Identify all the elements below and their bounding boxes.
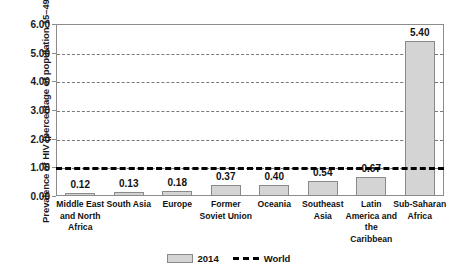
bar-value-label: 0.18 (168, 177, 187, 188)
legend-entry-world: World (233, 253, 291, 264)
bar-value-label: 0.37 (216, 171, 235, 182)
bar-value-label: 0.12 (71, 179, 90, 190)
bar (356, 177, 386, 196)
hiv-prevalence-bar-chart: Prevalence of HIV (percentage of populat… (0, 0, 457, 277)
legend-swatch-icon (167, 254, 193, 263)
bar (162, 191, 192, 196)
bar (405, 41, 435, 196)
bar (114, 192, 144, 196)
bar (65, 193, 95, 196)
y-axis-tick-label: 3.00 (10, 105, 50, 116)
bar-value-label: 0.40 (265, 171, 284, 182)
x-axis-category-label: Sub-SaharanAfrica (389, 199, 452, 222)
y-axis-tick-label: 5.00 (10, 47, 50, 58)
bar-value-label: 0.13 (119, 178, 138, 189)
y-axis-tick-label: 2.00 (10, 133, 50, 144)
legend-label-world: World (264, 253, 291, 264)
y-axis-tick-label: 1.00 (10, 162, 50, 173)
y-axis-tick-label: 4.00 (10, 76, 50, 87)
legend-dashed-line-icon (233, 257, 259, 260)
bar (211, 185, 241, 196)
bar (259, 185, 289, 196)
bar-value-label: 5.40 (410, 27, 429, 38)
legend-entry-2014: 2014 (167, 253, 219, 264)
bar (308, 181, 338, 196)
y-axis-tick-mark (52, 196, 56, 197)
chart-legend: 2014 World (0, 253, 457, 264)
x-axis-categories: Middle Eastand NorthAfricaSouth AsiaEuro… (56, 199, 444, 249)
y-axis-tick-label: 6.00 (10, 19, 50, 30)
y-axis-tick-label: 0.00 (10, 191, 50, 202)
legend-label-2014: 2014 (198, 253, 219, 264)
world-reference-line (56, 167, 444, 170)
